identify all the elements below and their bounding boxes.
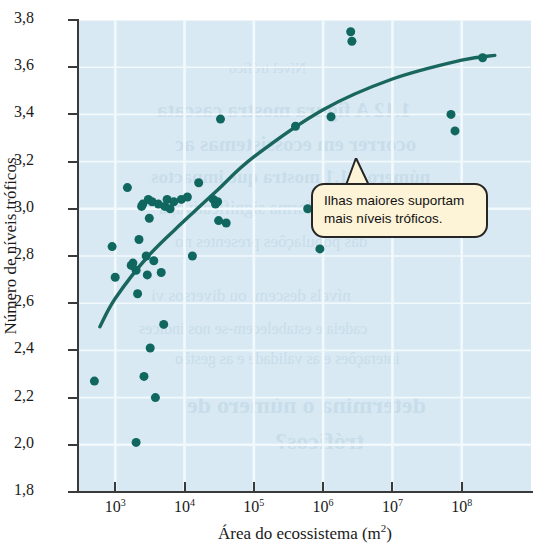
x-tick-mark	[253, 482, 255, 492]
data-point	[111, 273, 120, 282]
data-point	[291, 122, 300, 131]
x-tick-mark	[391, 482, 393, 492]
x-tick-label: 108	[432, 497, 492, 516]
data-point	[135, 235, 144, 244]
data-point	[143, 270, 152, 279]
callout-line-2: mais níveis tróficos.	[324, 210, 476, 228]
x-tick-label: 103	[85, 497, 145, 516]
data-point	[132, 266, 141, 275]
annotation-callout: Ilhas maiores suportam mais níveis trófi…	[311, 183, 488, 238]
data-point	[346, 27, 355, 36]
data-point	[140, 372, 149, 381]
data-point	[327, 112, 336, 121]
x-axis-title: Área do ecossistema (m2)	[79, 522, 531, 544]
x-tick-mark	[461, 482, 463, 492]
data-point	[451, 126, 460, 135]
y-tick-mark	[68, 208, 78, 210]
data-point	[347, 37, 356, 46]
data-point	[194, 178, 203, 187]
data-point	[142, 252, 151, 261]
x-axis-title-end: )	[386, 524, 392, 543]
data-point	[132, 438, 141, 447]
y-tick-mark	[68, 302, 78, 304]
data-point	[188, 252, 197, 261]
y-axis-title-text: Número de níveis tróficos	[1, 157, 21, 334]
data-point	[169, 197, 178, 206]
y-tick-mark	[68, 444, 78, 446]
data-point	[108, 242, 117, 251]
y-tick-mark	[68, 66, 78, 68]
data-point	[151, 393, 160, 402]
data-point	[478, 53, 487, 62]
data-point	[183, 193, 192, 202]
plot-area: Nível trófico 1.12 A figura mostra casca…	[79, 20, 531, 492]
x-tick-mark	[114, 482, 116, 492]
data-point	[447, 110, 456, 119]
x-tick-label: 105	[224, 497, 284, 516]
y-tick-mark	[68, 349, 78, 351]
callout-line-1: Ilhas maiores suportam	[324, 192, 476, 210]
y-tick-mark	[68, 113, 78, 115]
data-layer	[79, 20, 531, 492]
data-point	[145, 214, 154, 223]
x-tick-label: 106	[293, 497, 353, 516]
x-axis-title-text: Área do ecossistema (m	[218, 524, 381, 543]
y-tick-mark	[68, 491, 78, 493]
y-axis-title: Número de níveis tróficos	[0, 0, 28, 492]
y-tick-mark	[68, 161, 78, 163]
x-tick-label: 107	[362, 497, 422, 516]
y-tick-mark	[68, 19, 78, 21]
data-point	[222, 219, 231, 228]
scatter-chart-figure: Nível trófico 1.12 A figura mostra casca…	[0, 0, 550, 556]
x-tick-mark	[322, 482, 324, 492]
x-axis-line	[77, 491, 533, 493]
data-point	[133, 289, 142, 298]
data-point	[157, 268, 166, 277]
data-point	[123, 183, 132, 192]
y-tick-mark	[68, 255, 78, 257]
y-tick-mark	[68, 397, 78, 399]
data-point	[149, 256, 158, 265]
data-point	[146, 344, 155, 353]
x-tick-mark	[184, 482, 186, 492]
data-point	[315, 244, 324, 253]
x-tick-label: 104	[155, 497, 215, 516]
data-point	[216, 115, 225, 124]
data-point	[90, 377, 99, 386]
data-point	[213, 197, 222, 206]
data-point	[159, 320, 168, 329]
data-point	[214, 216, 223, 225]
